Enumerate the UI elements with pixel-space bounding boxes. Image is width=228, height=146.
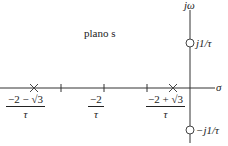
tick-label-center: −2 τ — [88, 94, 104, 120]
s-plane-diagram — [0, 0, 228, 146]
sigma-axis-label: σ — [216, 82, 221, 93]
pole-label-right: −2 + √3 τ — [146, 94, 185, 120]
jw-axis-label: jω — [184, 0, 195, 11]
plane-title: plano s — [84, 28, 115, 39]
pole-label-left: −2 − √3 τ — [6, 94, 45, 120]
zero-marker — [186, 39, 194, 47]
zero-label-upper: j1/τ — [196, 38, 212, 49]
zero-label-lower: −j1/τ — [196, 125, 219, 136]
zero-marker — [186, 126, 194, 134]
